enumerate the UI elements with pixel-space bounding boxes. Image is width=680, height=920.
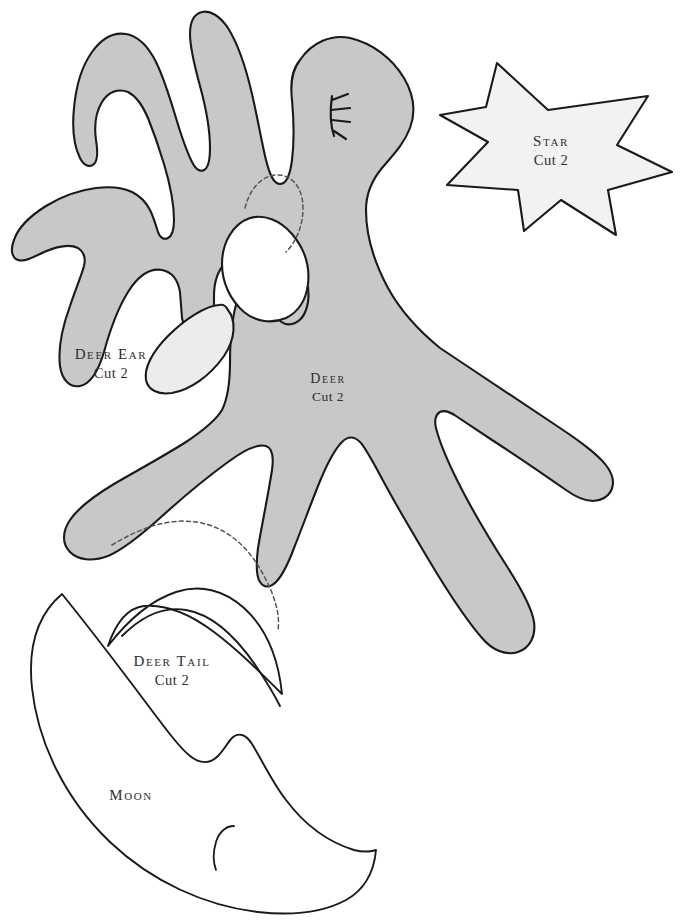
deer-ear-outline (146, 305, 234, 394)
deer-tail-outline (108, 589, 282, 694)
pattern-artwork (0, 0, 680, 920)
star-piece (440, 63, 672, 235)
deer-ear-piece (146, 305, 234, 394)
moon-outline (31, 594, 376, 914)
star-outline (440, 63, 672, 235)
moon-piece (31, 594, 376, 914)
pattern-sheet: Deer Cut 2 Deer Ear Cut 2 Star Cut 2 Dee… (0, 0, 680, 920)
